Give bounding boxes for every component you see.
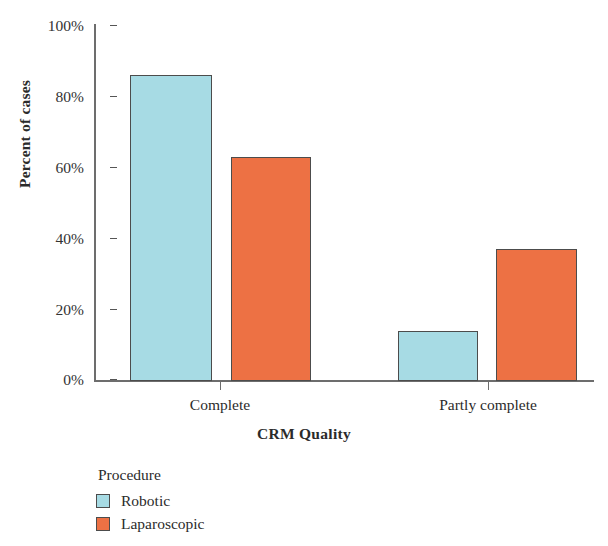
bar-chart: Percent of cases 100% 80% 60% 40% 20% 0%… (0, 0, 608, 546)
y-axis-ticks: 100% 80% 60% 40% 20% 0% (22, 0, 84, 546)
y-tick-label-80: 80% (26, 89, 84, 105)
y-tick-mark-60 (110, 167, 117, 168)
x-tick-mark-partly-complete (488, 381, 489, 390)
bar-partly-complete-robotic (398, 331, 478, 381)
bar-partly-complete-laparoscopic (496, 249, 577, 381)
y-tick-mark-80 (110, 96, 117, 97)
y-tick-label-60: 60% (26, 160, 84, 176)
legend-swatch-laparoscopic (96, 517, 110, 531)
bar-complete-laparoscopic (231, 157, 311, 381)
y-axis-line (94, 24, 96, 381)
bar-complete-robotic (130, 75, 212, 381)
x-tick-label-complete: Complete (140, 396, 300, 414)
legend-item-robotic[interactable]: Robotic (96, 489, 205, 512)
y-tick-label-40: 40% (26, 231, 84, 247)
y-tick-mark-20 (110, 309, 117, 310)
y-tick-label-20: 20% (26, 302, 84, 318)
legend-label-laparoscopic: Laparoscopic (121, 515, 205, 533)
legend: Procedure Robotic Laparoscopic (96, 466, 205, 535)
y-tick-mark-40 (110, 238, 117, 239)
legend-label-robotic: Robotic (121, 492, 170, 510)
x-axis-title: CRM Quality (0, 425, 608, 443)
y-tick-mark-100 (110, 25, 117, 26)
legend-swatch-robotic (96, 494, 110, 508)
legend-item-laparoscopic[interactable]: Laparoscopic (96, 512, 205, 535)
y-tick-label-100: 100% (26, 18, 84, 34)
x-tick-mark-complete (220, 381, 221, 390)
legend-title: Procedure (96, 466, 205, 484)
y-tick-label-0: 0% (26, 372, 84, 388)
x-tick-label-partly-complete: Partly complete (398, 396, 578, 414)
